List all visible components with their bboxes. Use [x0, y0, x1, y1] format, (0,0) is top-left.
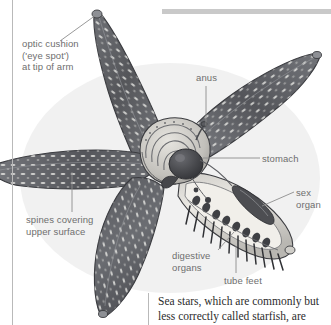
tube-feet-label: tube feet — [224, 275, 284, 287]
body-column-rule — [148, 293, 149, 325]
body-paragraph: Sea stars, which are commonly but less c… — [158, 294, 330, 323]
top-header-bar — [162, 9, 331, 14]
spines-label: spines covering upper surface — [26, 214, 136, 237]
digestive-organs-label: digestive organs — [172, 250, 232, 273]
stomach-label: stomach — [262, 153, 322, 165]
left-margin-rule — [12, 0, 13, 325]
encyclopedia-page: optic cushion ('eye spot') at tip of arm… — [0, 0, 331, 325]
optic-cushion-label: optic cushion ('eye spot') at tip of arm — [22, 38, 122, 73]
anus-label: anus — [196, 72, 236, 84]
sex-organ-label: sex organ — [296, 187, 330, 210]
